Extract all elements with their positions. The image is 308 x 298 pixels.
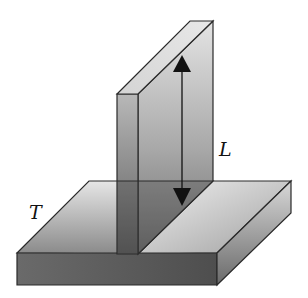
thickness-label: T bbox=[29, 203, 42, 222]
diagram-canvas bbox=[0, 0, 308, 298]
base-front-face bbox=[17, 253, 217, 285]
length-label: L bbox=[219, 140, 232, 159]
t-joint-diagram: L T bbox=[0, 0, 308, 298]
